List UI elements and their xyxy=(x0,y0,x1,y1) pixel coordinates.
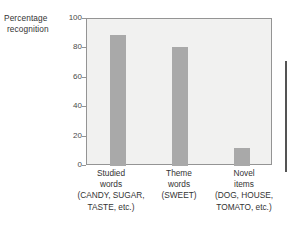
y-axis-tick-label: 60 xyxy=(60,73,82,81)
page-margin-rule xyxy=(285,61,287,172)
y-axis-tick-label: 80 xyxy=(60,43,82,51)
x-axis-label-line: Novel xyxy=(196,168,292,179)
bar xyxy=(172,47,188,166)
x-axis-label-line: TASTE, etc.) xyxy=(63,202,159,213)
bar xyxy=(110,35,126,166)
y-axis-tick-label: 20 xyxy=(60,132,82,140)
plot-area xyxy=(86,18,272,165)
x-axis-label-line: TOMATO, etc.) xyxy=(196,202,292,213)
x-axis-label-novel-items: Novelitems(DOG, HOUSE,TOMATO, etc.) xyxy=(196,168,292,213)
y-axis-tick-label: 100 xyxy=(60,14,82,22)
bar xyxy=(234,148,250,166)
x-axis-category-labels: Studiedwords(CANDY, SUGAR,TASTE, etc.) T… xyxy=(0,168,293,226)
x-axis-label-line: items xyxy=(196,179,292,190)
y-axis-tick-label: 40 xyxy=(60,102,82,110)
y-axis-tick-mark xyxy=(82,165,86,166)
x-axis-label-line: (DOG, HOUSE, xyxy=(196,190,292,201)
bar-chart-figure: Percentage recognition 020406080100 Stud… xyxy=(0,0,293,227)
